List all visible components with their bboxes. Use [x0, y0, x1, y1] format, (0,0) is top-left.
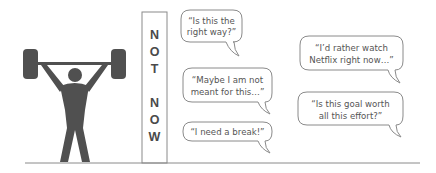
left-weight-plate [23, 49, 38, 79]
bubble-text-line: “I’d rather watch [315, 43, 388, 53]
bubble-text-line: all this effort?” [319, 111, 383, 121]
figure-body [60, 83, 90, 162]
speech-bubble: “Is this the right way?” [181, 10, 242, 56]
bubble-text-line: “Maybe I am not [192, 75, 264, 85]
barbell-bar [37, 62, 112, 65]
not-now-column: N O T N O W [142, 12, 167, 163]
bubble-text-line: “I need a break!” [190, 127, 264, 137]
bubble-text-line: meant for this…” [191, 87, 265, 97]
column-letter: O [150, 113, 160, 127]
speech-bubble: “I’d rather watch Netflix right now…” [300, 36, 403, 83]
speech-bubbles: “Is this the right way?” “Maybe I am not… [181, 10, 403, 153]
column-letter: N [150, 96, 159, 110]
speech-bubble: “Maybe I am not meant for this…” [183, 68, 272, 114]
weightlifter-icon [23, 49, 126, 162]
bubble-text-line: “Is this the [188, 16, 235, 26]
right-weight-plate [111, 49, 126, 79]
column-letter: T [151, 62, 159, 76]
speech-bubble: “I need a break!” [183, 122, 272, 153]
column-letter: N [150, 28, 159, 42]
speech-bubble: “Is this goal worth all this effort?” [298, 92, 403, 137]
bubble-text-line: Netflix right now…” [309, 55, 393, 65]
bubble-text-line: right way?” [187, 27, 236, 37]
figure-head [68, 68, 82, 82]
bubble-text-line: “Is this goal worth [311, 99, 389, 109]
column-letter: W [149, 130, 161, 144]
illustration: N O T N O W “Is this the right way?” “Ma… [0, 0, 436, 173]
column-letter: O [150, 45, 160, 59]
